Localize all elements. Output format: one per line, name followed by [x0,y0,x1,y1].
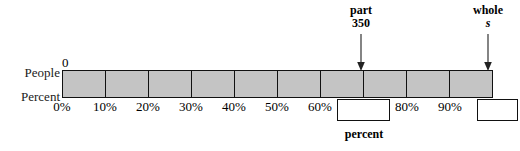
bar-segment [235,71,278,97]
tick-label-10: 10% [83,100,127,113]
arrow-down-icon-part [355,34,367,72]
callout-whole-value: s [458,17,518,30]
tick-label-60: 60% [298,100,342,113]
zero-label: 0 [62,56,69,69]
percent-bar [62,70,493,98]
bar-segment [364,71,407,97]
percent-bar-diagram: People Percent 0 0% 10% 20% 30% 40% 50% … [0,0,520,151]
tick-label-40: 40% [212,100,256,113]
row-label-people: People [0,66,60,79]
bar-segment [63,71,106,97]
bar-segment [450,71,492,97]
whole-answer-box[interactable] [477,99,518,121]
arrow-down-icon-whole [482,34,494,72]
bar-segment [278,71,321,97]
percent-answer-box-caption: percent [330,128,398,140]
bar-segment [149,71,192,97]
tick-label-80: 80% [385,100,429,113]
percent-answer-box[interactable] [337,99,390,121]
bar-segment [192,71,235,97]
callout-part-value: 350 [331,17,391,30]
tick-label-20: 20% [126,100,170,113]
bar-segment [321,71,364,97]
callout-whole: whole s [458,4,518,30]
bar-segment [407,71,450,97]
tick-label-50: 50% [255,100,299,113]
tick-label-0: 0% [40,100,84,113]
tick-label-30: 30% [169,100,213,113]
bar-segment [106,71,149,97]
tick-label-90: 90% [428,100,472,113]
callout-part: part 350 [331,4,391,30]
